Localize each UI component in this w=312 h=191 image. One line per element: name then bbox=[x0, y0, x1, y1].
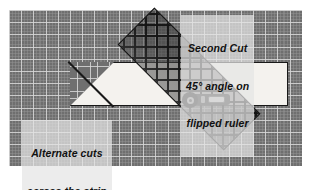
annotation-alternate-cuts-line-1: Alternate cuts bbox=[27, 147, 107, 160]
diagram-canvas: Second Cut 45° angle on flipped ruler Al… bbox=[0, 0, 312, 190]
annotation-second-cut-line-1: Second Cut bbox=[186, 42, 249, 55]
annotation-second-cut-line-2: 45° angle on bbox=[186, 80, 249, 93]
annotation-alternate-cuts-line-2: across the strip bbox=[27, 185, 107, 191]
annotation-second-cut-line-3: flipped ruler bbox=[186, 117, 249, 130]
annotation-alternate-cuts: Alternate cuts across the strip bbox=[22, 120, 112, 190]
annotation-second-cut: Second Cut 45° angle on flipped ruler bbox=[181, 15, 254, 157]
